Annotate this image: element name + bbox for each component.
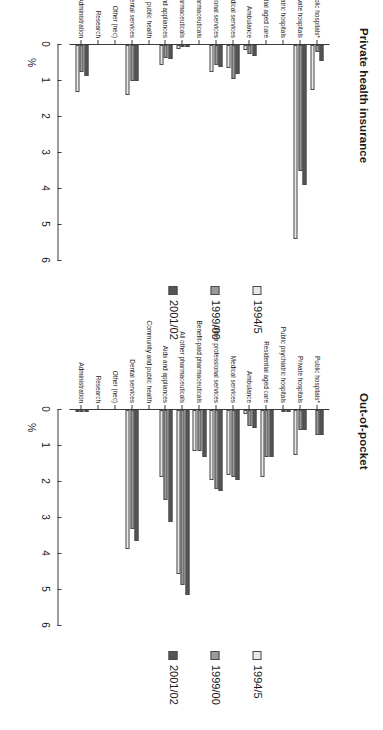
category-label: Ambulance [246, 371, 253, 403]
x-axis-tick-label: 0 [39, 41, 50, 47]
x-axis-tick [57, 188, 61, 189]
bar-1999-00-administration [79, 410, 83, 412]
x-axis-tick [57, 80, 61, 81]
category-axis-tick [248, 405, 249, 409]
x-axis-tick-label: 6 [39, 622, 50, 628]
legend-item: 1994/5 [251, 651, 263, 705]
x-axis-tick-label: 4 [39, 550, 50, 556]
bar-1994-5-ambulance [243, 410, 247, 414]
bar-1994-5-private-hospitals [293, 45, 297, 239]
category-label: Medical services [229, 0, 236, 38]
bar-1999-00-dental-services [130, 410, 134, 529]
category-label: Other (nec) [112, 6, 119, 38]
category-label: Public hospitals* [313, 356, 320, 403]
category-label: Aids and appliances [162, 346, 169, 403]
category-axis-tick [316, 405, 317, 409]
bar-1994-5-administration [75, 45, 79, 92]
bar-1999-00-medical-services [231, 45, 235, 79]
legend-item-label: 1999/00 [209, 665, 221, 705]
axis-label-percent: % [25, 423, 37, 432]
category-label: Public psychiatric hospitals [280, 0, 287, 38]
rotated-figure-stage: Private health insurance % 0123456Public… [0, 0, 383, 730]
bar-1994-5-aids-and-appliances [159, 410, 163, 477]
x-axis-tick [57, 260, 61, 261]
bar-1999-00-other-professional-services [214, 45, 218, 65]
bar-2001-02-all-other-pharmaceuticals [185, 410, 189, 595]
bar-1994-5-other-professional-services [209, 45, 213, 72]
category-axis-tick [215, 40, 216, 44]
category-axis-tick [97, 405, 98, 409]
legend-item: 2001/02 [167, 651, 179, 705]
category-label: Community and public health [145, 0, 152, 38]
category-axis-tick [164, 40, 165, 44]
category-label: Public psychiatric hospitals [280, 327, 287, 403]
category-label: All other pharmaceuticals [179, 0, 186, 38]
category-axis-tick [97, 40, 98, 44]
bar-1994-5-administration [75, 410, 79, 412]
bar-1994-5-public-hospitals [310, 45, 314, 90]
category-label: Private hospitals [296, 0, 303, 38]
bar-2001-02-public-psychiatric-hospitals [286, 410, 290, 412]
category-axis-tick [299, 40, 300, 44]
bar-2001-02-medical-services [235, 410, 239, 480]
bar-1999-00-other-professional-services [214, 410, 218, 489]
x-axis-tick-label: 2 [39, 113, 50, 119]
plot-area-out-of-pocket: % 0123456Public hospitals*Private hospit… [73, 409, 325, 625]
bar-2001-02-public-hospitals [319, 410, 323, 435]
category-axis-tick [148, 40, 149, 44]
category-label: Aids and appliances [162, 0, 169, 38]
category-axis-tick [265, 40, 266, 44]
bar-1999-00-private-hospitals [298, 45, 302, 171]
bar-1999-00-medical-services [231, 410, 235, 477]
chart-panels: Private health insurance % 0123456Public… [0, 0, 383, 730]
x-axis-tick [57, 116, 61, 117]
x-axis-tick [57, 481, 61, 482]
legend-swatch-icon [211, 651, 220, 660]
bar-1999-00-dental-services [130, 45, 134, 81]
bar-1994-5-benefit-paid-pharmaceuticals [192, 410, 196, 451]
bar-1994-5-residential-aged-care [260, 410, 264, 477]
category-label: Ambulance [246, 6, 253, 38]
x-axis-tick [57, 589, 61, 590]
category-axis-tick [198, 405, 199, 409]
bar-1994-5-other-professional-services [209, 410, 213, 480]
x-axis-tick-label: 4 [39, 185, 50, 191]
x-axis-tick-label: 5 [39, 221, 50, 227]
x-axis-tick-label: 1 [39, 442, 50, 448]
bar-2001-02-all-other-pharmaceuticals [185, 45, 189, 47]
legend-swatch-icon [169, 286, 178, 295]
legend-swatch-icon [253, 286, 262, 295]
category-axis-tick [282, 40, 283, 44]
category-label: Medical services [229, 356, 236, 403]
x-axis-tick [57, 224, 61, 225]
legend-item-label: 1994/5 [251, 665, 263, 699]
category-label: Dental services [128, 0, 135, 38]
category-axis-tick [282, 405, 283, 409]
bar-1994-5-all-other-pharmaceuticals [176, 45, 180, 49]
category-axis-tick [316, 40, 317, 44]
category-axis-tick [114, 40, 115, 44]
category-axis-tick [198, 40, 199, 44]
category-label: All other pharmaceuticals [179, 331, 186, 403]
category-axis-tick [265, 405, 266, 409]
bar-2001-02-administration [84, 45, 88, 76]
category-axis-tick [148, 405, 149, 409]
category-label: Residential aged care [263, 0, 270, 38]
chart-panel-out-of-pocket: Out-of-pocket % 0123456Public hospitals*… [0, 365, 383, 730]
legend-out-of-pocket: 1994/5 1999/00 2001/02 [167, 651, 263, 705]
bar-2001-02-private-hospitals [302, 410, 306, 430]
bar-1994-5-medical-services [226, 45, 230, 68]
category-axis-tick [80, 40, 81, 44]
category-label: Public hospitals* [313, 0, 320, 38]
category-label: Residential aged care [263, 341, 270, 403]
axis-label-percent: % [25, 58, 37, 67]
bar-2001-02-ambulance [252, 410, 256, 428]
legend-item: 1994/5 [251, 286, 263, 340]
bar-1994-5-dental-services [125, 45, 129, 95]
category-label: Other professional services [212, 326, 219, 403]
category-label: Dental services [128, 359, 135, 403]
bar-2001-02-administration [84, 410, 88, 412]
category-axis-tick [181, 405, 182, 409]
legend-item-label: 1994/5 [251, 300, 263, 334]
bar-2001-02-ambulance [252, 45, 256, 56]
